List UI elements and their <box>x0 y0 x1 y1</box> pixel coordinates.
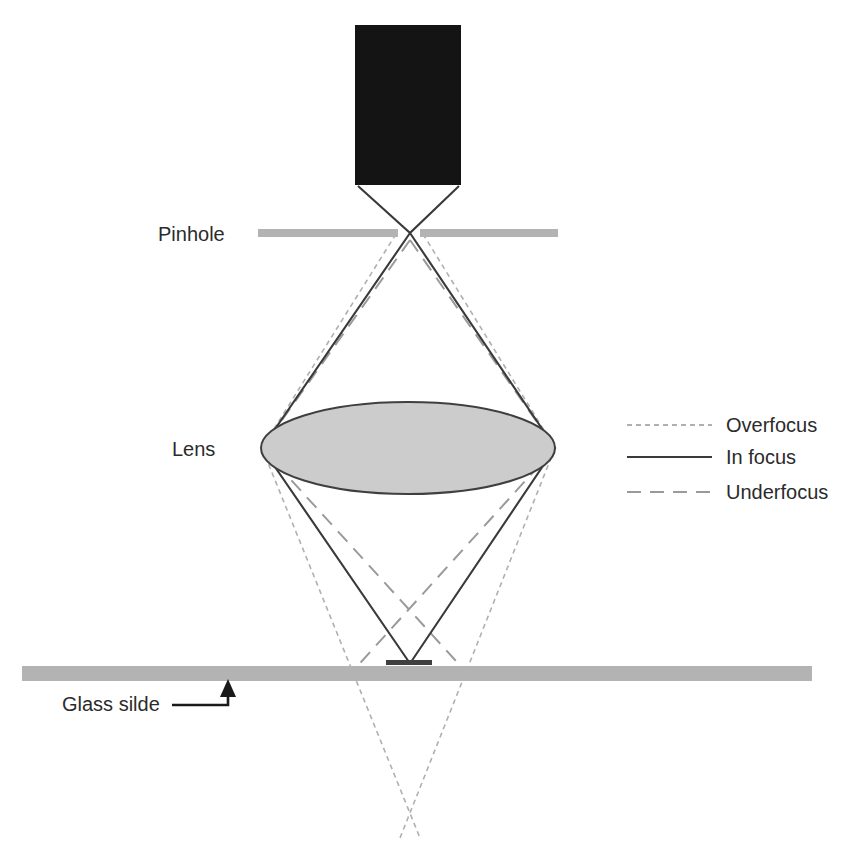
glass-slide-leader-arrowhead <box>220 679 236 697</box>
overfocus-ray-right <box>400 234 555 838</box>
glass-slide-label: Glass silde <box>62 693 160 715</box>
legend-entry-underfocus: Underfocus <box>627 481 828 503</box>
pinhole-bar-right <box>420 229 558 237</box>
legend-entry-in-focus: In focus <box>627 446 796 468</box>
overfocus-ray-group <box>262 234 555 838</box>
lens-label: Lens <box>172 438 215 460</box>
legend-entry-overfocus: Overfocus <box>627 414 817 436</box>
legend-label-in-focus: In focus <box>726 446 796 468</box>
specimen-bar <box>386 660 432 665</box>
glass-slide-leader <box>172 679 236 705</box>
pinhole-bar-left <box>258 229 398 237</box>
legend-label-underfocus: Underfocus <box>726 481 828 503</box>
pinhole-label: Pinhole <box>158 223 225 245</box>
focus-legend: Overfocus In focus Underfocus <box>627 414 828 503</box>
glass-slide-leader-line <box>172 692 228 705</box>
detector-block <box>355 25 461 185</box>
lens-ellipse <box>261 402 555 494</box>
optical-ray-diagram: Pinhole Lens Glass silde Overfocus In fo… <box>0 0 850 845</box>
legend-label-overfocus: Overfocus <box>726 414 817 436</box>
glass-slide-band <box>22 666 812 681</box>
diagram-canvas: Pinhole Lens Glass silde Overfocus In fo… <box>0 0 850 845</box>
